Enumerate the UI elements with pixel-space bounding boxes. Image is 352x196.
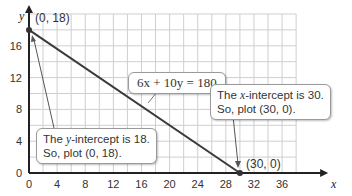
y-axis-label: y <box>18 9 25 23</box>
svg-text:16: 16 <box>10 40 22 52</box>
label-x-intercept-point: (30, 0) <box>246 157 281 171</box>
svg-text:12: 12 <box>10 72 22 84</box>
svg-text:20: 20 <box>163 178 175 190</box>
y-callout-line1: The y-intercept is 18. <box>43 132 150 146</box>
svg-text:32: 32 <box>248 178 260 190</box>
svg-text:4: 4 <box>54 178 60 190</box>
x-callout-line2: So, plot (30, 0). <box>217 102 324 116</box>
svg-text:36: 36 <box>276 178 288 190</box>
svg-text:24: 24 <box>192 178 204 190</box>
label-y-intercept-point: (0, 18) <box>35 11 70 25</box>
x-intercept-callout: The x-intercept is 30. So, plot (30, 0). <box>210 84 331 120</box>
svg-text:12: 12 <box>107 178 119 190</box>
y-callout-pointer <box>34 40 54 128</box>
x-callout-line1: The x-intercept is 30. <box>217 88 324 102</box>
y-callout-arrowhead <box>31 35 36 42</box>
x-axis-label: x <box>330 177 337 191</box>
svg-text:16: 16 <box>135 178 147 190</box>
y-intercept-callout: The y-intercept is 18. So, plot (0, 18). <box>36 128 157 164</box>
svg-text:8: 8 <box>16 103 22 115</box>
point-y-intercept <box>26 27 32 33</box>
svg-text:0: 0 <box>16 167 22 179</box>
svg-text:4: 4 <box>16 135 22 147</box>
svg-text:8: 8 <box>82 178 88 190</box>
point-x-intercept <box>237 170 243 176</box>
y-callout-line2: So, plot (0, 18). <box>43 146 150 160</box>
svg-text:0: 0 <box>26 178 32 190</box>
svg-text:28: 28 <box>220 178 232 190</box>
equation-text: 6x + 10y = 180 <box>137 75 217 90</box>
